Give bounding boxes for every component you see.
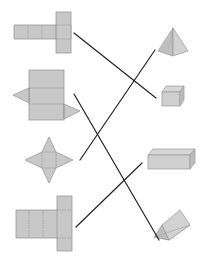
net-rectangular-prism (16, 196, 72, 251)
net-cube-t (14, 12, 71, 53)
net-square-pyramid (25, 137, 73, 183)
solid-cube (162, 86, 184, 106)
net-triangular-prism (13, 70, 80, 120)
net-matching-diagram (0, 0, 207, 264)
solid-rectangular-prism (148, 149, 195, 169)
solid-square-pyramid (158, 28, 188, 56)
match-line-triangular-prism (74, 94, 159, 240)
match-line-rectangular-prism (76, 163, 142, 227)
matching-lines (74, 33, 159, 240)
match-line-pyramid (80, 50, 155, 160)
match-line-cube (74, 33, 156, 98)
solid-triangular-prism (154, 210, 190, 240)
